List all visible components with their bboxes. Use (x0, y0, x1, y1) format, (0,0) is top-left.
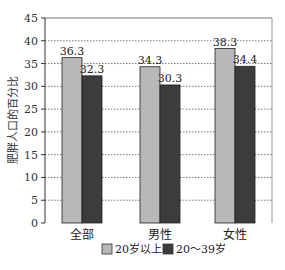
bar-value-label: 38.3 (213, 36, 238, 49)
y-tick-label: 25 (24, 103, 38, 116)
legend-swatch (102, 244, 112, 254)
bar (160, 85, 180, 223)
legend: 20岁以上20～39岁 (102, 242, 226, 256)
bar (82, 76, 102, 223)
y-tick-label: 15 (24, 149, 38, 162)
legend-label: 20～39岁 (176, 242, 226, 256)
bar (62, 58, 82, 223)
bars: 36.332.334.330.338.334.4 (60, 36, 258, 223)
x-axis-categories: 全部男性女性 (70, 227, 247, 242)
y-tick-label: 10 (24, 171, 38, 184)
legend-label: 20岁以上 (115, 242, 162, 256)
y-tick-label: 30 (24, 80, 38, 93)
bar-value-label: 34.4 (233, 53, 258, 66)
category-label: 全部 (70, 227, 94, 242)
bar (140, 67, 160, 223)
bar-value-label: 36.3 (60, 45, 85, 58)
y-tick-label: 5 (31, 194, 38, 207)
bar-value-label: 30.3 (158, 72, 183, 85)
bar-value-label: 32.3 (80, 63, 105, 76)
y-tick-label: 40 (24, 35, 38, 48)
bar-value-label: 34.3 (138, 54, 163, 67)
category-label: 男性 (148, 228, 172, 242)
y-axis-label: 肥胖人口的百分比 (6, 76, 20, 164)
y-axis: 051015202530354045 (24, 12, 45, 230)
y-tick-label: 20 (24, 126, 38, 139)
bar-chart: 051015202530354045 36.332.334.330.338.33… (0, 0, 285, 270)
category-label: 女性 (223, 227, 247, 242)
y-tick-label: 0 (31, 217, 38, 230)
y-tick-label: 35 (24, 58, 38, 71)
bar (215, 49, 235, 223)
y-tick-label: 45 (24, 12, 38, 25)
bar (235, 66, 255, 223)
legend-swatch (163, 244, 173, 254)
